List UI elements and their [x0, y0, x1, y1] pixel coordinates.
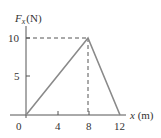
x-axis-label: x (m) — [129, 109, 154, 122]
x-tick-label-8: 8 — [86, 120, 92, 132]
x-tick-label-0: 0 — [16, 120, 22, 132]
y-tick-label-5: 5 — [14, 70, 20, 82]
force-line — [26, 38, 120, 115]
force-vs-position-chart: Fx(N) 10 5 0 4 8 12 x (m) — [0, 0, 161, 138]
x-tick-label-4: 4 — [55, 120, 61, 132]
y-tick-label-10: 10 — [8, 32, 20, 44]
x-tick-label-12: 12 — [114, 120, 125, 132]
y-axis-label: Fx(N) — [14, 12, 42, 26]
